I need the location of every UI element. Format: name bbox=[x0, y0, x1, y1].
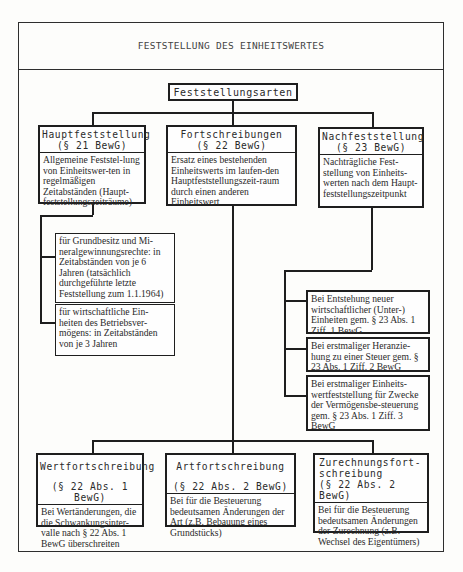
connector bbox=[284, 300, 306, 302]
node-title-text: Artfortschreibung bbox=[169, 461, 292, 472]
nach-detail-ziff1: Bei Entstehung neuer wirtschaftlicher (U… bbox=[306, 290, 430, 334]
connector bbox=[232, 100, 234, 112]
node-fortschreibungen: Fortschreibungen (§ 22 BewG) Ersatz eine… bbox=[166, 125, 297, 206]
nach-detail-ziff2: Bei erstmaliger Heranzie-hung zu einer S… bbox=[306, 337, 430, 372]
node-description: Ersatz eines bestehenden Einheitswerts i… bbox=[168, 153, 295, 210]
node-hauptfeststellung: Hauptfeststellung (§ 21 BewG) Allgemeine… bbox=[38, 125, 146, 204]
connector bbox=[371, 207, 373, 270]
detail-text: für Grundbesitz und Mi-neralgewinnungsre… bbox=[56, 234, 174, 302]
haupt-detail-grundbesitz: für Grundbesitz und Mi-neralgewinnungsre… bbox=[55, 233, 175, 303]
node-section: (§ 22 Abs. 2 BewG) bbox=[319, 479, 425, 501]
connector bbox=[284, 348, 306, 350]
node-description: Bei für die Besteuerung bedeutsamen Ände… bbox=[167, 494, 294, 540]
detail-text: für wirtschaftliche Ein-heiten des Betri… bbox=[56, 305, 174, 351]
node-title-text: Nachfeststellung bbox=[322, 131, 420, 142]
node-title-text: Fortschreibungen bbox=[170, 129, 293, 140]
connector bbox=[284, 395, 306, 397]
root-label: Feststellungsarten bbox=[173, 87, 292, 98]
node-title: Artfortschreibung (§ 22 Abs. 2 BewG) bbox=[167, 455, 294, 494]
node-section: (§ 22 BewG) bbox=[170, 140, 293, 151]
connector bbox=[40, 215, 42, 323]
connector bbox=[372, 112, 374, 127]
node-section: (§ 22 Abs. 1 BewG) bbox=[40, 481, 140, 503]
nach-detail-ziff3: Bei erstmaliger Einheits-wertfeststellun… bbox=[306, 375, 430, 431]
root-node: Feststellungsarten bbox=[168, 83, 298, 101]
node-wertfortschreibung: Wertfortschreibung (§ 22 Abs. 1 BewG) Be… bbox=[36, 453, 144, 527]
connector bbox=[284, 270, 372, 272]
connector bbox=[284, 270, 286, 396]
node-section: (§ 22 Abs. 2 BewG) bbox=[169, 481, 292, 492]
node-title: Fortschreibungen (§ 22 BewG) bbox=[168, 127, 295, 153]
node-title: Nachfeststellung (§ 23 BewG) bbox=[320, 129, 422, 155]
node-title: Zurechnungsfort-schreibung (§ 22 Abs. 2 … bbox=[315, 455, 427, 503]
node-description: Bei für die Besteuerung bedeutsamen Ände… bbox=[315, 503, 427, 549]
node-artfortschreibung: Artfortschreibung (§ 22 Abs. 2 BewG) Bei… bbox=[165, 453, 296, 527]
node-title-text: Zurechnungsfort-schreibung bbox=[319, 457, 425, 479]
detail-text: Bei erstmaliger Einheits-wertfeststellun… bbox=[308, 377, 428, 434]
node-nachfeststellung: Nachfeststellung (§ 23 BewG) Nachträglic… bbox=[318, 127, 424, 208]
detail-text: Bei erstmaliger Heranzie-hung zu einer S… bbox=[308, 339, 428, 375]
node-title: Wertfortschreibung (§ 22 Abs. 1 BewG) bbox=[38, 455, 142, 505]
connector bbox=[40, 322, 56, 324]
node-section: (§ 23 BewG) bbox=[322, 142, 420, 153]
connector bbox=[40, 215, 93, 217]
node-description: Allgemeine Feststel-lung von Einheitswer… bbox=[40, 153, 144, 210]
connector bbox=[232, 205, 234, 441]
detail-text: Bei Entstehung neuer wirtschaftlicher (U… bbox=[308, 292, 428, 338]
node-description: Nachträgliche Fest-stellung von Einheits… bbox=[320, 155, 422, 201]
connector bbox=[232, 112, 234, 125]
diagram-title: FESTSTELLUNG DES EINHEITSWERTES bbox=[18, 22, 444, 70]
haupt-detail-betriebsvermoegen: für wirtschaftliche Ein-heiten des Betri… bbox=[55, 304, 175, 356]
connector bbox=[40, 256, 56, 258]
node-title: Hauptfeststellung (§ 21 BewG) bbox=[40, 127, 144, 153]
node-description: Bei Wertänderungen, die die Schwankungsi… bbox=[38, 505, 142, 551]
node-zurechnungsfortschreibung: Zurechnungsfort-schreibung (§ 22 Abs. 2 … bbox=[313, 453, 429, 533]
node-title-text: Hauptfeststellung bbox=[42, 129, 142, 140]
connector bbox=[92, 112, 94, 125]
node-title-text: Wertfortschreibung bbox=[40, 461, 140, 472]
node-section: (§ 21 BewG) bbox=[42, 140, 142, 151]
